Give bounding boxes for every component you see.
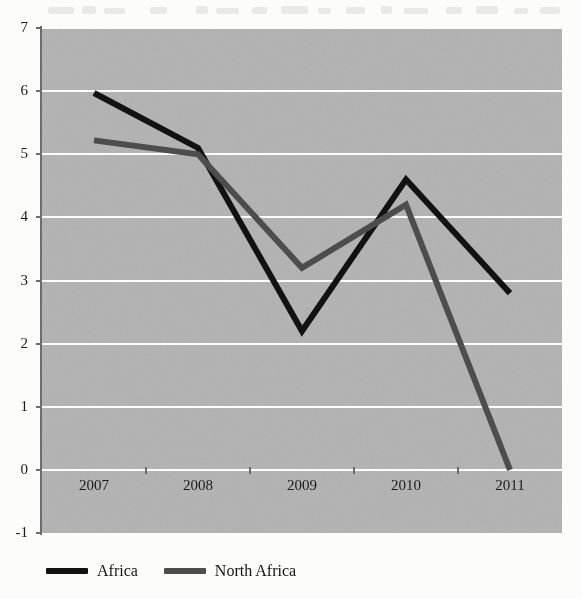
- line-chart-figure: -101234567 20072008200920102011 AfricaNo…: [0, 0, 582, 599]
- y-axis-label-3: 3: [0, 273, 28, 288]
- y-axis-label-0: 0: [0, 462, 28, 477]
- legend-swatch-icon: [46, 568, 88, 574]
- legend-entry-africa[interactable]: Africa: [46, 563, 138, 579]
- y-axis-label-1: 1: [0, 399, 28, 414]
- legend-entry-north-africa[interactable]: North Africa: [164, 563, 296, 579]
- y-axis-label-5: 5: [0, 146, 28, 161]
- y-axis-label-2: 2: [0, 336, 28, 351]
- series-overlay: [42, 28, 562, 533]
- series-line-north-africa: [94, 140, 510, 470]
- legend-label: North Africa: [215, 563, 296, 579]
- chart-legend: AfricaNorth Africa: [46, 558, 296, 584]
- y-axis-label-4: 4: [0, 209, 28, 224]
- legend-label: Africa: [97, 563, 138, 579]
- scan-bleedthrough-artifact: [0, 0, 582, 26]
- y-axis-label--1: -1: [0, 525, 28, 540]
- y-axis-label-6: 6: [0, 83, 28, 98]
- y-axis-label-7: 7: [0, 20, 28, 35]
- series-line-africa: [94, 93, 510, 331]
- legend-swatch-icon: [164, 568, 206, 574]
